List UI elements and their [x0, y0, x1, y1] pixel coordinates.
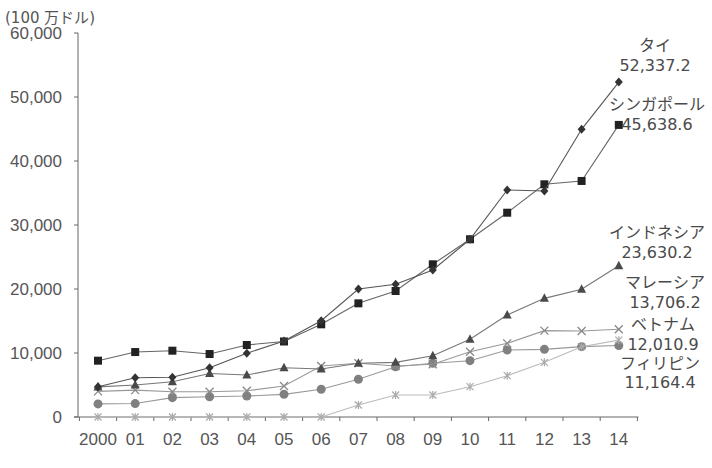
y-axis-tick-label: 50,000	[10, 88, 62, 107]
series-name: マレーシア	[605, 274, 712, 292]
diamond-marker	[206, 363, 214, 372]
series-triangle	[94, 261, 624, 391]
triangle-marker	[503, 310, 512, 319]
series-end-value: 11,164.4	[600, 374, 712, 392]
square-marker	[578, 177, 586, 185]
series-end-value: 12,010.9	[603, 336, 712, 354]
triangle-marker	[577, 284, 586, 293]
triangle-marker	[280, 363, 289, 372]
x-axis-tick-label: 2000	[79, 430, 117, 449]
series-diamond	[94, 78, 623, 392]
series-line	[98, 125, 619, 361]
circle-marker	[131, 399, 140, 408]
x-axis-tick-label: 12	[535, 430, 554, 449]
x-axis-tick-label: 11	[498, 430, 516, 449]
square-marker	[168, 347, 176, 355]
circle-marker	[94, 399, 103, 408]
x-axis-tick-label: 04	[237, 430, 256, 449]
y-axis-tick-label: 30,000	[10, 216, 62, 235]
circle-marker	[466, 356, 475, 365]
series-name: タイ	[595, 37, 712, 55]
series-label-thailand: タイ 52,337.2	[595, 37, 712, 75]
series-end-value: 23,630.2	[597, 244, 712, 262]
series-label-vietnam: ベトナム 12,010.9	[603, 316, 712, 354]
series-end-value: 52,337.2	[595, 57, 712, 75]
square-marker	[503, 209, 511, 217]
square-marker	[206, 350, 214, 358]
y-axis-tick-label: 10,000	[10, 344, 62, 363]
x-axis-tick-label: 09	[423, 430, 442, 449]
square-marker	[354, 299, 362, 307]
y-axis-unit-label: (100 万ドル)	[5, 6, 95, 27]
y-axis-tick-label: 40,000	[10, 152, 62, 171]
diamond-marker	[131, 373, 139, 382]
circle-marker	[205, 392, 214, 401]
series-label-malaysia: マレーシア 13,706.2	[605, 274, 712, 312]
x-axis-tick-label: 13	[572, 430, 591, 449]
circle-marker	[317, 385, 326, 394]
series-name: フィリピン	[600, 355, 712, 373]
series-square	[94, 121, 623, 365]
asterisk-marker	[541, 358, 548, 366]
x-axis-tick-label: 01	[126, 430, 145, 449]
chart-series	[94, 78, 624, 421]
series-line	[98, 82, 619, 387]
circle-marker	[354, 375, 363, 384]
x-axis-tick-label: 06	[312, 430, 331, 449]
triangle-marker	[428, 351, 437, 360]
cross-marker	[466, 348, 474, 356]
x-axis-tick-label: 02	[163, 430, 182, 449]
x-axis-tick-label: 14	[609, 430, 628, 449]
asterisk-marker	[355, 401, 362, 409]
x-axis-tick-label: 03	[200, 430, 219, 449]
square-marker	[94, 357, 102, 365]
diamond-marker	[354, 285, 362, 294]
y-axis-tick-label: 20,000	[10, 280, 62, 299]
square-marker	[131, 348, 139, 356]
series-end-value: 45,638.6	[597, 116, 712, 134]
series-name: ベトナム	[603, 316, 712, 334]
series-label-indonesia: インドネシア 23,630.2	[597, 224, 712, 262]
triangle-marker	[614, 261, 623, 270]
series-end-value: 13,706.2	[605, 294, 712, 312]
diamond-marker	[243, 349, 251, 358]
series-label-singapore: シンガポール 45,638.6	[597, 96, 712, 134]
circle-marker	[242, 392, 251, 401]
x-axis-tick-label: 10	[461, 430, 480, 449]
x-axis-tick-label: 07	[349, 430, 368, 449]
square-marker	[243, 341, 251, 349]
diamond-marker	[168, 373, 176, 382]
series-label-philippines: フィリピン 11,164.4	[600, 355, 712, 392]
circle-marker	[280, 390, 289, 399]
series-line	[98, 266, 619, 387]
series-name: シンガポール	[597, 96, 712, 114]
triangle-marker	[466, 334, 475, 343]
x-axis-tick-label: 08	[386, 430, 405, 449]
x-axis-tick-label: 05	[275, 430, 294, 449]
asterisk-marker	[504, 372, 511, 380]
y-axis-tick-label: 0	[53, 408, 62, 427]
series-name: インドネシア	[597, 224, 712, 242]
circle-marker	[540, 345, 549, 354]
